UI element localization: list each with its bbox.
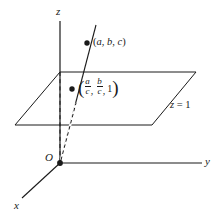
figure-3d-plane-diagram: z y x O (a, b, c) ( a c , b c , 1 ) z = …: [0, 0, 219, 218]
point-projection-label: ( a c , b c , 1 ): [78, 78, 119, 97]
plane-label-eq: = 1: [174, 99, 190, 110]
fraction-b-denominator: c: [97, 86, 103, 96]
z-axis-label: z: [56, 6, 60, 17]
y-axis-label: y: [205, 156, 210, 167]
fraction-a-denominator: c: [85, 86, 91, 96]
x-axis: [22, 163, 60, 198]
projection-close-paren: ): [112, 81, 118, 95]
origin-dot: [57, 160, 63, 166]
projection-comma-1: ,: [91, 86, 94, 96]
projection-comma-2: ,: [103, 86, 106, 96]
x-axis-label: x: [14, 200, 19, 211]
point-abc-close: ): [122, 36, 126, 47]
point-abc-label: (a, b, c): [93, 37, 126, 48]
plane-label: z = 1: [170, 100, 191, 111]
point-abc-dot: [84, 40, 89, 45]
point-projection-dot: [69, 86, 74, 91]
origin-label: O: [45, 152, 53, 163]
